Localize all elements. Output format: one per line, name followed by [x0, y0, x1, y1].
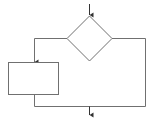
process-box	[9, 63, 59, 95]
left-branch-connector	[35, 39, 68, 63]
flowchart-canvas	[0, 0, 154, 118]
decision-diamond	[67, 16, 112, 61]
